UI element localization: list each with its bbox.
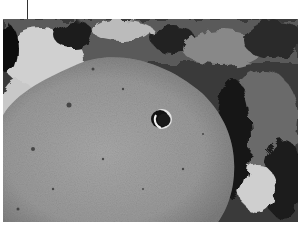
leader-line xyxy=(27,0,28,20)
lunar-crater-photo xyxy=(3,19,298,222)
